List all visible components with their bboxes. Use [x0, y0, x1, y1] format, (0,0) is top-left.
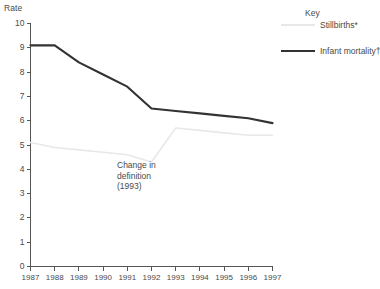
annotation-line-2: definition: [117, 171, 156, 182]
x-tick-label: 1990: [90, 273, 116, 282]
x-tick-label: 1996: [235, 273, 261, 282]
legend-swatch-stillbirths-icon: [281, 24, 315, 26]
y-tick-label: 7: [9, 91, 25, 101]
x-tick-label: 1987: [18, 273, 44, 282]
legend-item-infant-mortality: Infant mortality†: [281, 46, 380, 56]
axis-lines: [31, 24, 273, 267]
chart-annotation: Change in definition (1993): [117, 160, 156, 192]
annotation-line-1: Change in: [117, 160, 156, 171]
y-tick-label: 1: [9, 237, 25, 247]
legend-label-infant-mortality: Infant mortality†: [320, 46, 380, 56]
x-tick-label: 1991: [114, 273, 140, 282]
legend-swatch-infant-mortality-icon: [281, 50, 315, 53]
series-line-stillbirths: [31, 128, 273, 162]
series-lines: [31, 45, 273, 162]
annotation-line-3: (1993): [117, 181, 156, 192]
x-tick-label: 1992: [139, 273, 165, 282]
y-tick-label: 10: [9, 18, 25, 28]
x-tick-label: 1997: [260, 273, 286, 282]
y-tick-label: 5: [9, 140, 25, 150]
y-tick-label: 6: [9, 115, 25, 125]
series-line-infant-mortality: [31, 45, 273, 123]
y-tick-label: 3: [9, 188, 25, 198]
legend-label-stillbirths: Stillbirths*: [320, 20, 358, 30]
x-tick-label: 1995: [211, 273, 237, 282]
x-tick-label: 1994: [187, 273, 213, 282]
legend-item-stillbirths: Stillbirths*: [281, 20, 358, 30]
y-tick-label: 2: [9, 212, 25, 222]
y-tick-label: 0: [9, 261, 25, 271]
x-tick-label: 1993: [163, 273, 189, 282]
y-axis-ticks: [27, 24, 31, 267]
x-tick-label: 1989: [66, 273, 92, 282]
y-tick-label: 4: [9, 164, 25, 174]
y-tick-label: 8: [9, 67, 25, 77]
x-tick-label: 1988: [42, 273, 68, 282]
y-tick-label: 9: [9, 42, 25, 52]
x-axis-ticks: [31, 267, 273, 271]
legend-title: Key: [305, 8, 320, 18]
